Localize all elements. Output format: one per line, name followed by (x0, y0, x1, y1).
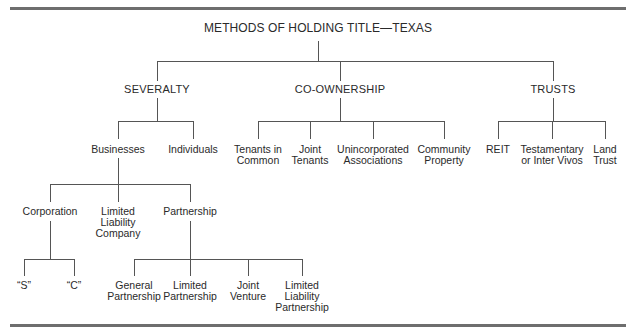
connector (605, 121, 606, 139)
node-limited-partnership: Limited Partnership (163, 280, 217, 302)
connector (258, 121, 259, 139)
connector (553, 61, 554, 81)
connector (318, 41, 319, 61)
connector (444, 121, 445, 139)
connector (552, 121, 553, 139)
connector (118, 121, 119, 139)
node-co-ownership: CO-OWNERSHIP (295, 84, 385, 95)
connector (50, 221, 51, 259)
connector (74, 259, 75, 276)
node-c-corp: “C” (67, 280, 82, 291)
node-businesses: Businesses (91, 144, 145, 155)
connector (118, 121, 194, 122)
connector (118, 184, 119, 202)
connector (157, 61, 158, 81)
node-joint-tenants: Joint Tenants (292, 144, 329, 166)
top-rule (10, 7, 626, 10)
node-joint-venture: Joint Venture (230, 280, 266, 302)
node-tenants-in-common: Tenants in Common (234, 144, 282, 166)
connector (373, 121, 374, 139)
connector (340, 98, 341, 121)
connector (553, 98, 554, 121)
connector (340, 61, 341, 81)
diagram-title: METHODS OF HOLDING TITLE—TEXAS (204, 23, 432, 34)
connector (134, 259, 135, 276)
node-partnership: Partnership (163, 206, 217, 217)
node-testamentary: Testamentary or Inter Vivos (520, 144, 583, 166)
connector (310, 121, 311, 139)
connector (258, 121, 445, 122)
node-severalty: SEVERALTY (124, 84, 190, 95)
node-llc: Limited Liability Company (96, 206, 141, 239)
node-unincorporated-associations: Unincorporated Associations (337, 144, 409, 166)
connector (50, 184, 191, 185)
connector (24, 259, 25, 276)
connector (193, 121, 194, 139)
connector (118, 158, 119, 184)
connector (157, 98, 158, 121)
connector (190, 184, 191, 202)
connector (157, 61, 554, 62)
node-llp: Limited Liability Partnership (275, 280, 329, 313)
connector (50, 184, 51, 202)
node-trusts: TRUSTS (530, 84, 575, 95)
connector (190, 259, 191, 276)
node-general-partnership: General Partnership (107, 280, 161, 302)
node-community-property: Community Property (417, 144, 470, 166)
connector (24, 259, 75, 260)
connector (302, 259, 303, 276)
connector (190, 221, 191, 259)
node-reit: REIT (486, 144, 510, 155)
connector (134, 259, 303, 260)
node-s-corp: “S” (17, 280, 31, 291)
node-land-trust: Land Trust (593, 144, 617, 166)
connector (498, 121, 499, 139)
node-corporation: Corporation (23, 206, 78, 217)
bottom-rule (10, 324, 626, 327)
connector (248, 259, 249, 276)
node-individuals: Individuals (168, 144, 218, 155)
